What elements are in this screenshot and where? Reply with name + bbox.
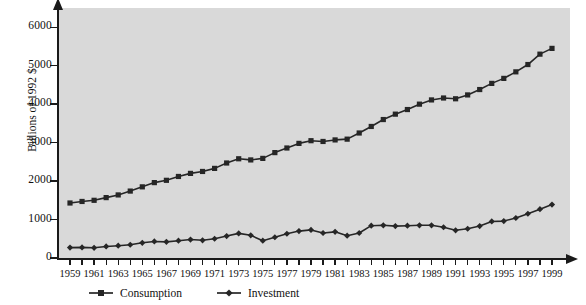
data-point-marker	[175, 238, 181, 244]
x-tick	[130, 258, 131, 265]
data-point-marker	[501, 76, 506, 81]
data-point-marker	[344, 233, 350, 239]
y-tick-label: 3000	[28, 135, 52, 147]
data-point-marker	[393, 112, 398, 117]
y-tick-label: 5000	[28, 58, 52, 70]
data-point-marker	[92, 198, 97, 203]
data-point-marker	[308, 138, 313, 143]
x-tick-label: 1987	[397, 268, 418, 279]
data-point-marker	[537, 206, 543, 212]
data-point-marker	[501, 218, 507, 224]
data-point-marker	[248, 157, 253, 162]
data-point-marker	[284, 145, 289, 150]
series-investment	[67, 201, 555, 250]
x-tick	[334, 258, 335, 265]
data-point-marker	[489, 218, 495, 224]
x-tick	[407, 258, 408, 265]
series-canvas	[58, 8, 570, 258]
data-point-marker	[272, 150, 277, 155]
y-tick-label: 1000	[28, 212, 52, 224]
data-point-marker	[320, 139, 325, 144]
y-axis-arrow-icon	[53, 0, 63, 10]
data-point-marker	[128, 188, 133, 193]
x-tick	[443, 258, 444, 265]
data-point-marker	[140, 184, 145, 189]
x-tick	[298, 258, 299, 265]
x-tick-label: 1969	[180, 268, 201, 279]
x-tick	[214, 258, 215, 265]
x-tick	[118, 258, 119, 265]
data-point-marker	[404, 223, 410, 229]
x-tick	[310, 258, 311, 265]
data-point-marker	[549, 201, 555, 207]
x-tick	[69, 258, 70, 265]
x-tick	[455, 258, 456, 265]
legend-item-investment[interactable]: Investment	[216, 287, 299, 299]
x-tick-label: 1985	[373, 268, 394, 279]
data-point-marker	[513, 215, 519, 221]
x-tick-label: 1989	[421, 268, 442, 279]
data-point-marker	[440, 224, 446, 230]
x-tick	[515, 258, 516, 265]
data-point-marker	[308, 227, 314, 233]
x-tick	[491, 258, 492, 265]
x-tick	[503, 258, 504, 265]
data-point-marker	[296, 141, 301, 146]
x-tick-label: 1965	[132, 268, 153, 279]
data-point-marker	[104, 195, 109, 200]
data-point-marker	[477, 223, 483, 229]
x-tick	[322, 258, 323, 265]
x-tick	[154, 258, 155, 265]
y-axis-title: Billions of 1992 $	[26, 30, 38, 190]
x-tick	[431, 258, 432, 265]
data-point-marker	[212, 166, 217, 171]
data-point-marker	[260, 238, 266, 244]
data-point-marker	[369, 124, 374, 129]
data-point-marker	[176, 174, 181, 179]
x-tick	[395, 258, 396, 265]
data-point-marker	[332, 229, 338, 235]
data-point-marker	[465, 226, 471, 232]
x-tick	[93, 258, 94, 265]
y-tick-label: 4000	[28, 96, 52, 108]
x-tick-label: 1973	[228, 268, 249, 279]
x-tick-label: 1993	[469, 268, 490, 279]
y-tick-label: 6000	[28, 19, 52, 31]
y-tick-label: 0	[46, 250, 52, 262]
chart-legend: ConsumptionInvestment	[88, 287, 299, 299]
data-point-marker	[151, 238, 157, 244]
data-point-marker	[248, 232, 254, 238]
data-point-marker	[139, 240, 145, 246]
legend-label: Investment	[248, 287, 299, 299]
data-point-marker	[453, 96, 458, 101]
x-tick-label: 1975	[252, 268, 273, 279]
x-tick	[274, 258, 275, 265]
x-tick	[371, 258, 372, 265]
data-point-marker	[477, 87, 482, 92]
x-tick	[359, 258, 360, 265]
data-point-marker	[537, 52, 542, 57]
x-tick	[347, 258, 348, 265]
data-point-marker	[163, 239, 169, 245]
data-point-marker	[333, 137, 338, 142]
x-tick	[479, 258, 480, 265]
legend-square-marker-icon	[88, 288, 114, 298]
data-point-marker	[224, 233, 230, 239]
data-point-marker	[441, 95, 446, 100]
x-tick-label: 1971	[204, 268, 225, 279]
data-point-marker	[284, 231, 290, 237]
data-point-marker	[453, 227, 459, 233]
legend-item-consumption[interactable]: Consumption	[88, 287, 182, 299]
data-point-marker	[115, 243, 121, 249]
x-tick-label: 1999	[542, 268, 563, 279]
x-tick	[202, 258, 203, 265]
data-point-marker	[380, 222, 386, 228]
x-tick-label: 1963	[108, 268, 129, 279]
data-point-marker	[416, 222, 422, 228]
x-tick	[467, 258, 468, 265]
data-point-marker	[260, 156, 265, 161]
x-tick	[190, 258, 191, 265]
data-point-marker	[489, 81, 494, 86]
data-point-marker	[236, 230, 242, 236]
x-tick-label: 1995	[493, 268, 514, 279]
